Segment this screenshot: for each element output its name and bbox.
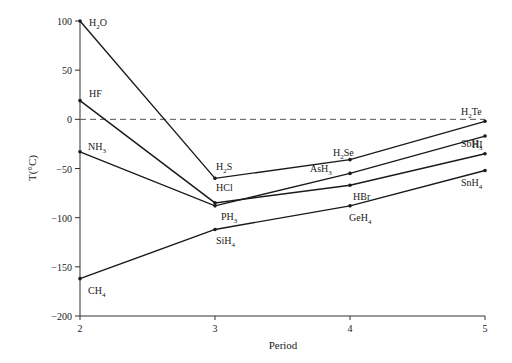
data-point xyxy=(348,158,352,162)
series-line xyxy=(80,170,485,278)
point-label: AsH3 xyxy=(310,163,332,177)
point-label: GeH4 xyxy=(349,212,372,226)
data-point xyxy=(348,204,352,208)
y-tick-label: −200 xyxy=(51,311,72,322)
data-point xyxy=(78,99,82,103)
point-label: SnH4 xyxy=(461,177,483,191)
point-label: SiH4 xyxy=(216,235,236,249)
point-label: H2S xyxy=(216,161,232,175)
data-point xyxy=(483,169,487,173)
data-point xyxy=(483,152,487,156)
x-tick-label: 5 xyxy=(483,323,488,334)
x-tick-label: 3 xyxy=(213,323,218,334)
point-label: H2Te xyxy=(461,106,482,120)
data-point xyxy=(348,172,352,176)
series-line xyxy=(80,101,485,203)
series-lines xyxy=(78,19,487,280)
point-label: PH3 xyxy=(221,211,238,225)
point-label: HCl xyxy=(216,182,233,193)
data-point xyxy=(483,120,487,124)
y-tick-label: −50 xyxy=(56,164,72,175)
y-axis-label: T(°C) xyxy=(26,155,39,181)
x-axis-label: Period xyxy=(269,339,298,351)
data-point xyxy=(483,134,487,138)
x-tick-label: 2 xyxy=(78,323,83,334)
data-point xyxy=(78,150,82,154)
y-tick-label: 0 xyxy=(67,114,72,125)
point-label: H2O xyxy=(89,17,107,31)
data-point xyxy=(213,228,217,232)
x-tick-label: 4 xyxy=(348,323,353,334)
y-tick-label: 50 xyxy=(62,65,72,76)
point-label: HF xyxy=(89,88,102,99)
point-label: NH3 xyxy=(88,141,106,155)
data-point xyxy=(213,177,217,181)
boiling-point-chart: 100500−50−100−150−2002345 H2OHFNH3CH4H2S… xyxy=(0,0,512,363)
point-label: HI xyxy=(472,139,483,150)
series-line xyxy=(80,21,485,178)
point-label: HBr xyxy=(353,191,371,202)
y-tick-label: −150 xyxy=(51,262,72,273)
data-point xyxy=(348,183,352,187)
point-label: CH4 xyxy=(88,285,106,299)
data-point xyxy=(213,204,217,208)
data-point xyxy=(78,277,82,281)
data-point xyxy=(78,19,82,23)
y-tick-label: −100 xyxy=(51,213,72,224)
point-labels: H2OHFNH3CH4H2SHClPH3SiH4H2SeAsH3HBrGeH4H… xyxy=(88,17,483,299)
y-tick-label: 100 xyxy=(57,16,72,27)
